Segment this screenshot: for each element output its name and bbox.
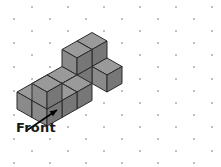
front-arrow bbox=[0, 0, 221, 167]
figure-canvas: Front bbox=[0, 0, 221, 167]
arrow-head bbox=[50, 110, 57, 116]
front-label: Front bbox=[16, 120, 56, 135]
